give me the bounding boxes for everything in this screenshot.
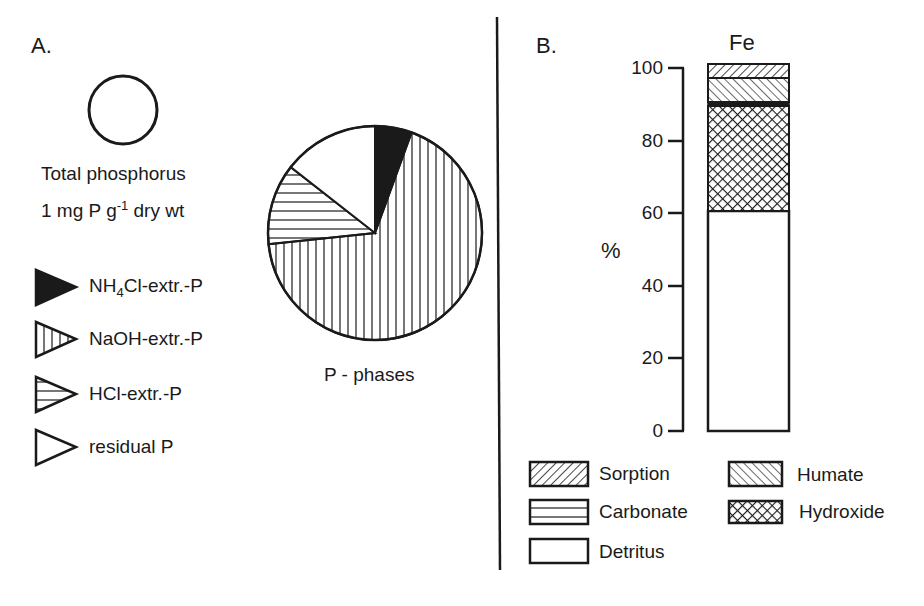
legend-label-residual: residual P [89, 436, 174, 458]
legend-label-hydroxide: Hydroxide [799, 501, 885, 523]
legend-residual-icon [36, 430, 76, 465]
bar-segment-hydroxide [708, 106, 789, 211]
legend-label-carbonate: Carbonate [599, 501, 688, 523]
y-tick-0: 0 [613, 420, 663, 442]
y-tick-40: 40 [613, 275, 663, 297]
unit-text: 1 mg P g [41, 200, 117, 221]
unit-text-end: dry wt [128, 200, 184, 221]
legend-label-nh4cl: NH4Cl-extr.-P [89, 275, 203, 300]
bar-segment-detritus [708, 211, 789, 431]
legend-hcl-icon [36, 377, 76, 412]
y-axis [668, 68, 684, 431]
legend-sorption-swatch [530, 462, 588, 486]
total-phosphorus-caption: Total phosphorus [41, 163, 186, 185]
pie-chart [268, 126, 482, 340]
legend-hydroxide-swatch [729, 501, 782, 523]
legend-label-naoh: NaOH-extr.-P [89, 328, 203, 350]
legend-text-end: Cl-extr.-P [124, 275, 203, 296]
y-tick-100: 100 [613, 57, 663, 79]
legend-nh4cl-icon [36, 270, 76, 305]
legend-label-hcl: HCl-extr.-P [89, 383, 182, 405]
y-axis-label: % [601, 238, 621, 264]
y-tick-20: 20 [613, 347, 663, 369]
legend-text: NH [89, 275, 116, 296]
total-phosphorus-unit: 1 mg P g-1 dry wt [41, 198, 184, 222]
legend-label-sorption: Sorption [599, 463, 670, 485]
panel-a-label: A. [31, 33, 52, 59]
y-tick-60: 60 [613, 202, 663, 224]
legend-carbonate-swatch [530, 500, 588, 524]
stacked-bar-fe [708, 64, 789, 431]
legend-naoh-icon [36, 322, 76, 357]
legend-label-humate: Humate [797, 464, 864, 486]
legend-detritus-swatch [530, 539, 588, 563]
y-tick-80: 80 [613, 130, 663, 152]
legend-label-detritus: Detritus [599, 541, 664, 563]
panel-b-label: B. [536, 33, 557, 59]
pie-caption: P - phases [324, 364, 414, 386]
panel-divider [497, 17, 500, 570]
legend-humate-swatch [729, 462, 782, 486]
unit-superscript: -1 [117, 198, 129, 213]
total-phosphorus-circle [89, 76, 157, 144]
figure-canvas [0, 0, 924, 606]
bar-segment-humate [708, 78, 789, 102]
legend-subscript: 4 [116, 285, 123, 300]
chart-title: Fe [729, 30, 755, 56]
bar-segment-sorption [708, 64, 789, 78]
